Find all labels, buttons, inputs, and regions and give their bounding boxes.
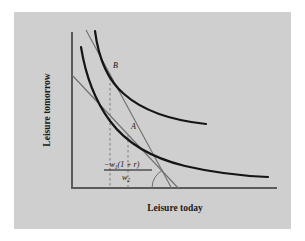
- numerator-prefix: −w: [104, 160, 115, 169]
- indifference-curve-low: [81, 47, 268, 177]
- economics-diagram: B A −w1(1 + r) w2 Leisure today Leisure …: [0, 0, 305, 241]
- figure-root: B A −w1(1 + r) w2 Leisure today Leisure …: [0, 0, 305, 241]
- numerator-suffix: (1 + r): [117, 160, 139, 169]
- point-label-b: B: [113, 61, 118, 70]
- y-axis-label: Leisure tomorrow: [42, 73, 52, 146]
- point-label-a: A: [130, 122, 136, 131]
- slope-angle-arc: [152, 170, 163, 188]
- denominator-subscript: 2: [127, 177, 130, 183]
- slope-numerator: −w1(1 + r): [104, 160, 140, 170]
- slope-denominator: w2: [122, 173, 130, 183]
- indifference-curves-group: [81, 31, 268, 177]
- x-axis-label: Leisure today: [147, 203, 203, 213]
